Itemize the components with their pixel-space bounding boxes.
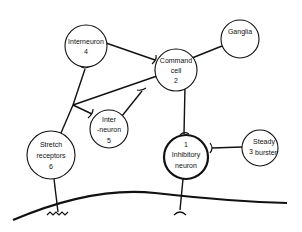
muscle-surface-line xyxy=(13,192,287,220)
node-number: 3 xyxy=(249,148,253,155)
node-label: neuron xyxy=(175,162,197,169)
node-label: Interneuron xyxy=(68,38,104,45)
edge-to-interneuron5 xyxy=(73,105,92,114)
edge-inhibitory-to-muscle xyxy=(180,179,183,210)
node-interneuron-4: Interneuron 4 xyxy=(65,25,107,67)
node-label: Command xyxy=(160,57,192,64)
node-label: cell xyxy=(171,67,182,74)
node-label: Inhibitory xyxy=(172,151,201,159)
node-label: burster xyxy=(255,149,277,156)
edge-stretch-to-muscle xyxy=(54,179,58,212)
edge-command-to-inhibitory xyxy=(184,86,185,134)
node-interneuron-5: Inter -neuron 5 xyxy=(90,110,128,148)
node-ganglia: Ganglia xyxy=(221,20,259,58)
synapse-muscle-icon xyxy=(174,212,186,215)
sensory-ending-icon xyxy=(47,212,68,215)
synapse-inhibitory-burster-icon xyxy=(210,143,212,153)
edge-to-interneuron4 xyxy=(73,69,85,105)
node-inhibitory-neuron-1: 1 Inhibitory neuron xyxy=(164,135,208,179)
node-label: Steady xyxy=(253,138,275,146)
node-number: 1 xyxy=(184,141,188,148)
node-number: 5 xyxy=(107,137,111,144)
node-label: Stretch xyxy=(40,141,62,148)
node-stretch-receptors-6: Stretch receptors 6 xyxy=(27,131,75,179)
edge-to-command-from-branch xyxy=(73,76,157,105)
edge-interneuron4-to-command xyxy=(106,43,155,60)
node-number: 2 xyxy=(174,77,178,84)
edge-burster-to-inhibitory xyxy=(212,147,242,148)
node-number: 4 xyxy=(84,48,88,55)
node-label: receptors xyxy=(36,152,66,160)
node-command-cell-2: Command cell 2 xyxy=(155,49,197,91)
node-label: -neuron xyxy=(97,126,121,133)
node-steady-burster-3: Steady 3 burster xyxy=(242,130,278,166)
edge-interneuron5-to-command xyxy=(122,91,142,116)
node-label: Inter xyxy=(102,116,117,123)
neural-circuit-diagram: Interneuron 4 Command cell 2 Ganglia Str… xyxy=(0,0,302,232)
edge-stretch-trunk xyxy=(61,105,73,133)
node-label: Ganglia xyxy=(228,28,252,36)
node-number: 6 xyxy=(49,163,53,170)
synapse-command-from5-icon xyxy=(137,88,146,90)
